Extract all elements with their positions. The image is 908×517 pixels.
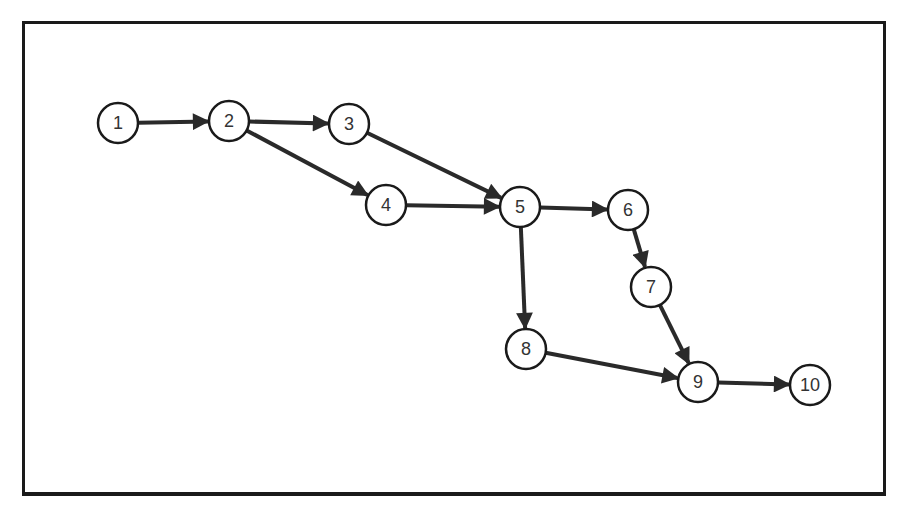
edge-8-to-9 <box>546 353 678 378</box>
edge-9-to-10 <box>718 383 789 385</box>
node-10: 10 <box>790 365 830 405</box>
edges-layer <box>138 121 789 384</box>
node-8: 8 <box>506 329 546 369</box>
node-label: 5 <box>515 197 525 217</box>
node-label: 6 <box>623 200 633 220</box>
node-label: 7 <box>646 277 656 297</box>
node-4: 4 <box>366 185 406 225</box>
edge-2-to-3 <box>249 121 328 123</box>
edge-5-to-8 <box>521 227 525 328</box>
node-9: 9 <box>678 362 718 402</box>
node-label: 2 <box>224 111 234 131</box>
node-label: 3 <box>344 114 354 134</box>
node-label: 10 <box>800 375 820 395</box>
node-label: 4 <box>381 195 391 215</box>
node-5: 5 <box>500 187 540 227</box>
node-label: 9 <box>693 372 703 392</box>
edge-6-to-7 <box>634 229 645 267</box>
node-3: 3 <box>329 104 369 144</box>
node-label: 1 <box>113 113 123 133</box>
edge-4-to-5 <box>406 205 499 206</box>
nodes-layer: 12345678910 <box>98 101 830 405</box>
node-2: 2 <box>209 101 249 141</box>
node-label: 8 <box>521 339 531 359</box>
edge-5-to-6 <box>540 208 607 210</box>
node-7: 7 <box>631 267 671 307</box>
edge-1-to-2 <box>138 121 208 122</box>
node-6: 6 <box>608 190 648 230</box>
network-diagram: 12345678910 <box>0 0 908 517</box>
node-1: 1 <box>98 103 138 143</box>
edge-7-to-9 <box>660 305 689 363</box>
